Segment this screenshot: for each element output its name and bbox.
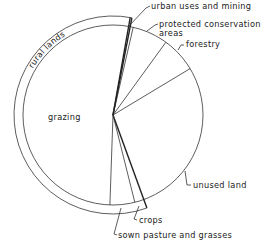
- leader-unused: [185, 171, 191, 185]
- ring-label-rural-lands: rural lands: [26, 29, 67, 70]
- slice-label-sown-pasture: sown pasture and grasses: [118, 230, 232, 240]
- slice-label-crops: crops: [139, 215, 163, 225]
- slice-boundary-line: [113, 115, 135, 202]
- slice-label-unused: unused land: [193, 180, 247, 190]
- slice-boundary-line: [113, 42, 166, 115]
- slice-label-grazing: grazing: [48, 112, 81, 122]
- slice-boundary-line: [110, 115, 113, 205]
- leader-protected: [147, 24, 158, 31]
- slice-boundary-line: [113, 115, 147, 208]
- slice-label-urban: urban uses and mining: [151, 1, 251, 11]
- slice-label-forestry: forestry: [186, 39, 220, 49]
- slice-boundary-line: [113, 69, 190, 115]
- leader-urban: [128, 6, 150, 27]
- pie-chart: rural lands grazing urban uses and minin…: [0, 0, 273, 250]
- rural-lands-boundary-line: [113, 18, 132, 115]
- slice-label-protected-2: areas: [159, 28, 183, 38]
- leader-forestry: [178, 45, 184, 50]
